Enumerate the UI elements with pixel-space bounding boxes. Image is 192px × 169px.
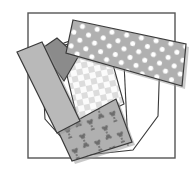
- geometric-collage-illustration: [0, 0, 192, 169]
- figure-canvas: [0, 0, 192, 169]
